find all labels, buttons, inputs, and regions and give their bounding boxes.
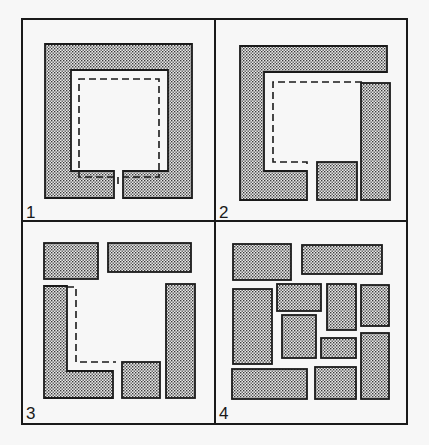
stippled-block bbox=[315, 367, 356, 399]
stippled-block bbox=[302, 245, 382, 274]
stippled-block bbox=[233, 244, 291, 280]
stippled-block bbox=[122, 362, 160, 398]
stippled-block bbox=[282, 315, 316, 358]
stippled-block bbox=[166, 284, 195, 398]
panel-label-4: 4 bbox=[219, 404, 228, 423]
panel-label-3: 3 bbox=[26, 404, 35, 423]
stippled-block bbox=[44, 243, 98, 279]
stippled-block bbox=[232, 369, 307, 399]
stippled-block bbox=[317, 162, 357, 200]
stippled-block bbox=[361, 333, 389, 399]
stippled-block bbox=[361, 285, 389, 326]
stippled-block bbox=[361, 83, 390, 200]
panel-label-1: 1 bbox=[26, 203, 35, 222]
stippled-block bbox=[233, 289, 272, 364]
panel-label-2: 2 bbox=[219, 203, 228, 222]
diagram-canvas: 1 2 3 4 bbox=[0, 0, 429, 445]
stippled-block bbox=[108, 243, 191, 272]
stippled-block bbox=[327, 284, 356, 330]
stippled-block bbox=[321, 338, 356, 358]
stippled-block bbox=[277, 284, 321, 311]
